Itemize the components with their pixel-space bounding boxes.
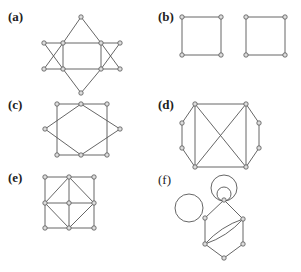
vertex-node <box>92 226 96 230</box>
vertex-node <box>43 127 47 131</box>
edge <box>205 244 224 258</box>
vertex-node <box>257 121 261 125</box>
vertex-node <box>79 153 83 157</box>
vertex-node <box>99 41 103 45</box>
loop-edge <box>175 194 203 222</box>
panel-label: (b) <box>158 9 174 24</box>
curved-edge <box>205 219 243 244</box>
vertex-node <box>105 153 109 157</box>
edge <box>246 104 259 123</box>
edge <box>81 17 101 43</box>
panel-label: (d) <box>158 97 174 112</box>
edge <box>182 104 195 123</box>
panel-b-two-squares: (b) <box>158 9 287 57</box>
edge <box>224 244 243 258</box>
vertex-node <box>222 198 226 202</box>
vertex-node <box>61 41 65 45</box>
edge <box>81 129 120 155</box>
vertex-node <box>55 102 59 106</box>
panel-label: (e) <box>8 170 22 185</box>
vertex-node <box>203 216 207 220</box>
vertex-node <box>241 242 245 246</box>
vertex-node <box>79 91 83 95</box>
vertex-node <box>67 175 71 179</box>
vertex-node <box>180 121 184 125</box>
vertex-node <box>219 53 223 57</box>
panel-a-star-graph: (a) <box>8 9 122 95</box>
vertex-node <box>244 53 248 57</box>
edge <box>69 177 94 203</box>
vertex-node <box>193 102 197 106</box>
edge <box>63 69 81 93</box>
vertex-node <box>105 102 109 106</box>
vertex-node <box>257 146 261 150</box>
vertex-node <box>180 15 184 19</box>
vertex-node <box>92 201 96 205</box>
vertex-node <box>67 226 71 230</box>
edge <box>182 148 195 167</box>
vertex-node <box>79 15 83 19</box>
vertex-node <box>244 102 248 106</box>
vertex-node <box>244 165 248 169</box>
edge <box>81 104 120 129</box>
edge <box>69 203 94 228</box>
vertex-node <box>55 153 59 157</box>
vertex-node <box>43 201 47 205</box>
panel-c-square-with-diamond: (c) <box>8 97 122 157</box>
edge <box>246 148 259 167</box>
vertex-node <box>180 146 184 150</box>
vertex-node <box>193 165 197 169</box>
vertex-node <box>61 67 65 71</box>
vertex-node <box>219 15 223 19</box>
panel-e-grid-with-diamond: (e) <box>8 170 96 230</box>
vertex-node <box>118 127 122 131</box>
edge <box>224 200 243 219</box>
vertex-node <box>283 53 287 57</box>
edge <box>45 203 69 228</box>
vertex-node <box>92 175 96 179</box>
vertex-node <box>203 242 207 246</box>
panel-label: (a) <box>8 9 23 24</box>
curved-edge <box>205 219 243 244</box>
edge <box>45 104 81 129</box>
vertex-node <box>244 15 248 19</box>
vertex-node <box>180 53 184 57</box>
edge <box>81 69 101 93</box>
vertex-node <box>118 67 122 71</box>
edge <box>45 129 81 155</box>
vertex-node <box>241 217 245 221</box>
panel-label: (c) <box>8 97 22 112</box>
vertex-node <box>99 67 103 71</box>
loop-edge <box>211 175 237 201</box>
vertex-node <box>43 226 47 230</box>
vertex-node <box>43 175 47 179</box>
vertex-node <box>42 41 46 45</box>
vertex-node <box>42 67 46 71</box>
vertex-node <box>222 256 226 260</box>
panel-f-hexagon-with-loops: (f) <box>158 172 245 260</box>
edge <box>45 177 69 203</box>
vertex-node <box>79 102 83 106</box>
panel-d-octagon-with-cross: (d) <box>158 97 261 169</box>
edge <box>63 17 81 43</box>
vertex-node <box>118 41 122 45</box>
vertex-node <box>283 15 287 19</box>
vertex-node <box>67 201 71 205</box>
graph-diagrams-figure: (a) (b) (c) (d) (e) (f) <box>0 0 301 272</box>
edge <box>205 200 224 218</box>
panel-label: (f) <box>158 172 171 187</box>
